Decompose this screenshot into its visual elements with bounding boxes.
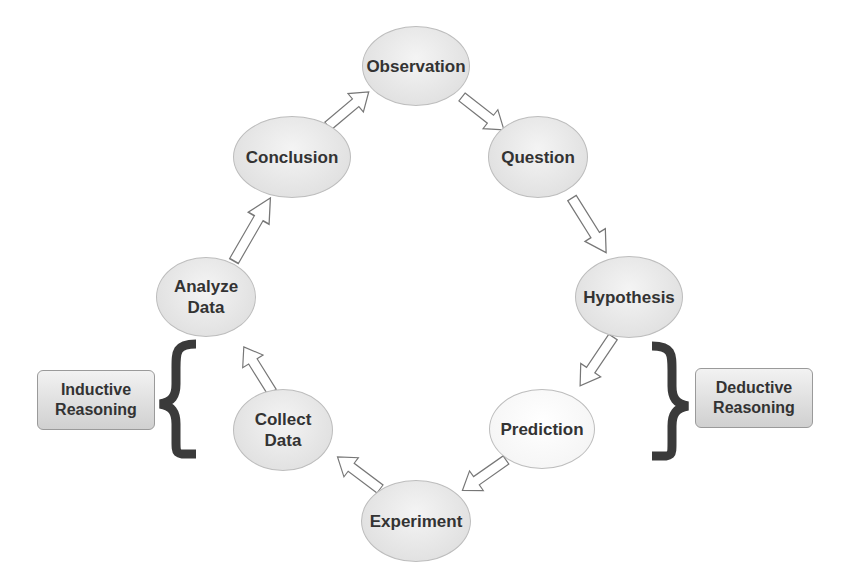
node-observation-label: Observation (366, 56, 465, 77)
node-collect-data: Collect Data (233, 389, 333, 471)
node-conclusion: Conclusion (233, 116, 351, 198)
deductive-reasoning-label: Deductive Reasoning (695, 368, 813, 428)
node-hypothesis: Hypothesis (575, 256, 683, 338)
deductive-brace (652, 346, 688, 456)
node-question: Question (488, 116, 588, 198)
node-prediction: Prediction (489, 389, 595, 469)
inductive-reasoning-text: Inductive Reasoning (46, 380, 146, 420)
node-collect-data-label: Collect Data (253, 409, 313, 451)
deductive-reasoning-text: Deductive Reasoning (704, 378, 804, 418)
arrow-analyze-to-conclusion (224, 192, 281, 267)
node-prediction-label: Prediction (500, 419, 583, 440)
inductive-reasoning-label: Inductive Reasoning (37, 370, 155, 430)
node-hypothesis-label: Hypothesis (583, 287, 675, 308)
inductive-brace (160, 344, 196, 454)
node-analyze-data: Analyze Data (156, 257, 256, 337)
node-conclusion-label: Conclusion (246, 147, 339, 168)
arrow-hypothesis-to-prediction (570, 330, 623, 392)
arrow-question-to-hypothesis (562, 192, 616, 259)
node-analyze-data-label: Analyze Data (171, 276, 241, 318)
node-experiment-label: Experiment (370, 511, 463, 532)
node-experiment: Experiment (361, 480, 471, 562)
node-question-label: Question (501, 147, 575, 168)
node-observation: Observation (362, 26, 470, 106)
